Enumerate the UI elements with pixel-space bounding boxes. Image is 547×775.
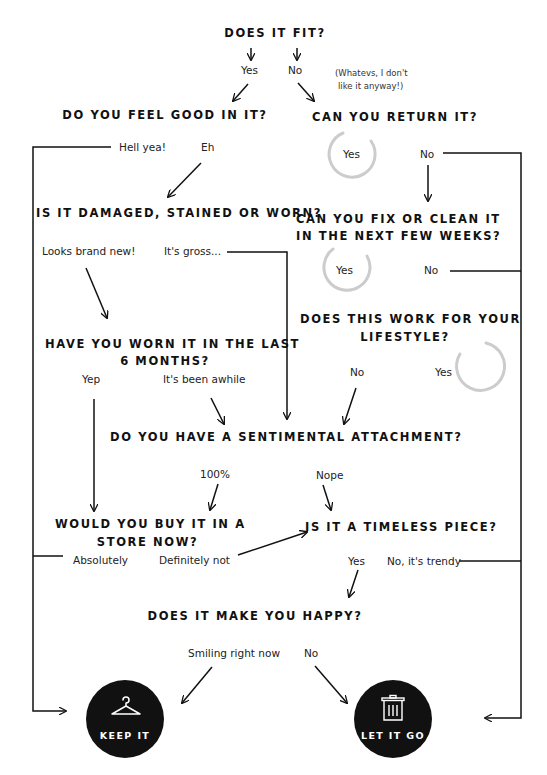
answer-fit-note-line1: (Whatevs, I don't <box>335 67 408 80</box>
answer-fit-yes: Yes <box>241 64 258 77</box>
answer-happy-no: No <box>304 647 318 660</box>
answer-return-yes: Yes <box>343 148 360 161</box>
arrow-yes-to-feel <box>233 84 248 101</box>
arrow-nope-to-timeless <box>323 485 331 510</box>
question-fix-line2: IN THE NEXT FEW WEEKS? <box>296 228 496 245</box>
arrow-awhile-to-sentimental <box>211 398 224 424</box>
answer-smiling-right-now: Smiling right now <box>188 647 280 660</box>
arrow-new-to-worn <box>86 268 107 318</box>
yes-ring-lifestyle <box>457 343 505 390</box>
question-sentimental: DO YOU HAVE A SENTIMENTAL ATTACHMENT? <box>110 429 440 446</box>
answer-lifestyle-yes: Yes <box>435 366 452 379</box>
answer-looks-brand-new: Looks brand new! <box>42 245 135 258</box>
answer-trendy: No, it's trendy <box>387 555 461 568</box>
answer-eh: Eh <box>201 141 214 154</box>
answer-fix-no: No <box>424 264 438 277</box>
answer-100-percent: 100% <box>200 468 230 481</box>
question-feel-good: DO YOU FEEL GOOD IN IT? <box>50 107 280 124</box>
answer-yep: Yep <box>82 373 100 386</box>
question-damaged: IS IT DAMAGED, STAINED OR WORN? <box>36 205 296 222</box>
question-lifestyle-line1: DOES THIS WORK FOR YOUR <box>300 311 510 328</box>
question-does-it-fit: DOES IT FIT? <box>200 25 350 42</box>
answer-been-awhile: It's been awhile <box>163 373 245 386</box>
arrow-smiling-to-keep <box>182 667 212 703</box>
arrow-timeless-yes-to-happy <box>349 570 358 597</box>
question-worn-line2: 6 MONTHS? <box>45 353 285 370</box>
question-worn-line1: HAVE YOU WORN IT IN THE LAST <box>45 336 285 353</box>
keep-it-circle <box>86 680 164 758</box>
answer-return-no: No <box>420 148 434 161</box>
arrow-no-to-return <box>298 83 314 101</box>
arrow-happy-no-to-letgo <box>315 666 347 703</box>
answer-fix-yes: Yes <box>336 264 353 277</box>
outcome-keep-it: KEEP IT <box>86 730 164 741</box>
answer-nope: Nope <box>316 469 343 482</box>
arrow-100-to-buy <box>210 484 218 510</box>
answer-fit-no: No <box>288 64 302 77</box>
question-return: CAN YOU RETURN IT? <box>305 109 485 126</box>
arrow-definitely-not-to-timeless <box>238 532 307 555</box>
answer-fit-note-line2: like it anyway!) <box>338 80 403 93</box>
question-fix-line1: CAN YOU FIX OR CLEAN IT <box>296 211 496 228</box>
arrow-lifestyle-no-to-sentimental <box>344 388 356 424</box>
answer-hell-yea: Hell yea! <box>119 141 166 154</box>
answer-its-gross: It's gross... <box>164 245 221 258</box>
question-lifestyle-line2: LIFESTYLE? <box>300 329 510 346</box>
question-timeless: IS IT A TIMELESS PIECE? <box>305 519 475 536</box>
answer-definitely-not: Definitely not <box>159 554 230 567</box>
line-hell-yea-to-keep <box>33 147 111 711</box>
question-buy-line2: STORE NOW? <box>55 534 240 551</box>
answer-absolutely: Absolutely <box>73 554 128 567</box>
answer-lifestyle-no: No <box>350 366 364 379</box>
outcome-let-it-go: LET IT GO <box>354 730 432 741</box>
let-it-go-circle <box>354 680 432 758</box>
question-happy: DOES IT MAKE YOU HAPPY? <box>145 608 365 625</box>
answer-timeless-yes: Yes <box>348 555 365 568</box>
question-buy-line1: WOULD YOU BUY IT IN A <box>55 516 240 533</box>
arrow-eh-to-damaged <box>168 163 201 197</box>
